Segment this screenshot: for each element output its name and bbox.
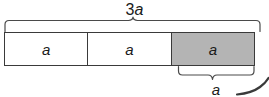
top-brace-icon: [0, 16, 269, 32]
total-label-variable: a: [135, 1, 144, 18]
bar-cell: a: [5, 33, 87, 65]
bottom-brace-icon: [0, 66, 269, 82]
bar-cell-label: a: [42, 41, 50, 58]
bar-cell-label: a: [125, 41, 133, 58]
bar-cell-shaded: a: [171, 33, 254, 65]
total-length-label: 3a: [0, 2, 269, 18]
total-label-coefficient: 3: [125, 1, 134, 18]
segment-length-label: a: [178, 82, 254, 97]
partitioned-bar: a a a: [4, 32, 255, 66]
bar-cell: a: [87, 33, 170, 65]
bar-cell-label: a: [209, 41, 217, 58]
math-bar-diagram: 3a a a a a: [0, 0, 269, 97]
